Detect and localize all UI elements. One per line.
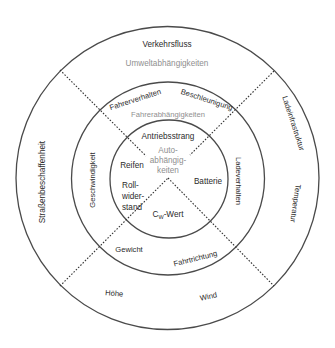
label-hoehe: Höhe	[105, 288, 124, 298]
category-line-3: keiten	[157, 166, 179, 175]
label-strassenbeschaffenheit: Straßenbeschaffenheit	[38, 140, 47, 223]
category-umweltabhaengigkeiten: Umweltabhängigkeiten	[126, 59, 209, 68]
label-reifen: Reifen	[120, 161, 144, 170]
category-autoabhaengigkeiten: Auto- abhängig- keiten	[150, 146, 187, 175]
rollwiderstand-line-1: Roll-	[122, 181, 139, 190]
label-temperatur: Temperatur	[288, 184, 302, 224]
category-line-2: abhängig-	[150, 156, 187, 165]
concentric-dependency-diagram: Verkehrsfluss Umweltabhängigkeiten Straß…	[0, 0, 335, 348]
label-ladeinfrastruktur: Ladeinfrastruktur	[280, 95, 306, 152]
label-verkehrsfluss: Verkehrsfluss	[142, 40, 191, 49]
divider-lower-left	[60, 178, 168, 286]
label-ladeverhalten: Ladeverhalten	[234, 157, 243, 205]
label-geschwindigkeit: Geschwindigkeit	[88, 151, 97, 207]
label-fahrerverhalten: Fahrerverhalten	[108, 87, 162, 112]
label-batterie: Batterie	[194, 177, 223, 186]
label-antriebsstrang: Antriebsstrang	[142, 132, 195, 141]
label-cw-wert: CW-Wert	[153, 210, 185, 220]
label-gewicht: Gewicht	[115, 245, 143, 254]
cw-suffix: -Wert	[164, 210, 185, 219]
label-wind: Wind	[199, 290, 218, 302]
category-line-1: Auto-	[158, 146, 178, 155]
divider-lower-right	[168, 178, 274, 286]
rollwiderstand-line-2: wider-	[121, 192, 145, 201]
label-rollwiderstand: Roll- wider- stand	[121, 181, 145, 212]
category-fahrerabhaengigkeiten: Fahrerabhängigkeiten	[131, 110, 205, 119]
rollwiderstand-line-3: stand	[122, 203, 142, 212]
